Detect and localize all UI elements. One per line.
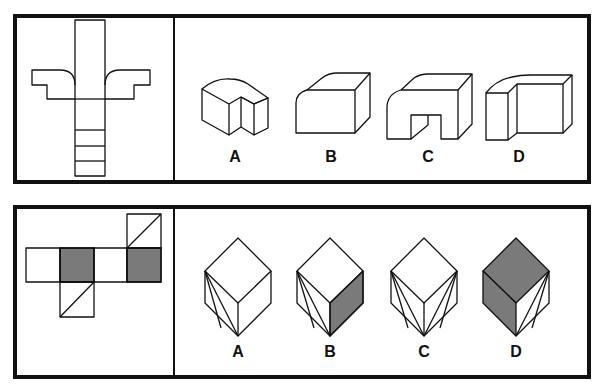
option-label-c[interactable]: C [409,343,439,361]
option-label-a[interactable]: A [220,148,250,166]
option-d-figure [486,75,572,140]
option-label-a[interactable]: A [223,343,253,361]
cube-option-a [205,238,271,336]
option-label-d[interactable]: D [504,148,534,166]
option-c-figure [387,74,472,139]
option-label-c[interactable]: C [413,148,443,166]
option-b-figure [296,73,370,133]
option-label-d[interactable]: D [501,343,531,361]
cube-option-b [297,238,363,336]
cube-option-c [391,238,457,336]
figures-layer [0,0,604,392]
cube-option-d [483,238,549,336]
option-label-b[interactable]: B [316,148,346,166]
net-figure-2 [26,214,161,317]
net-figure-1 [32,20,150,176]
option-a-figure [202,79,268,135]
option-label-b[interactable]: B [315,343,345,361]
